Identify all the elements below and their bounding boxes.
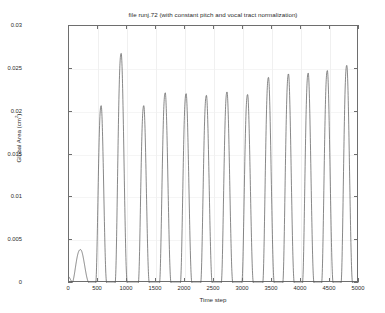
x-tick-mark-top: [358, 25, 359, 29]
x-tick-mark-top: [271, 25, 272, 29]
y-tick-mark-right: [354, 68, 358, 69]
x-tick-mark: [358, 278, 359, 282]
y-axis-label: Global Area (cm2): [14, 78, 22, 198]
x-tick-mark: [329, 278, 330, 282]
y-tick-mark-right: [354, 239, 358, 240]
y-tick-mark-right: [354, 111, 358, 112]
data-line-series: [69, 26, 359, 283]
x-tick-mark-top: [329, 25, 330, 29]
x-tick-label: 1500: [149, 285, 162, 291]
y-tick-mark: [68, 196, 72, 197]
x-tick-mark-top: [213, 25, 214, 29]
x-tick-label: 0: [66, 285, 69, 291]
x-tick-mark: [300, 278, 301, 282]
x-tick-label: 1000: [120, 285, 133, 291]
x-tick-mark: [271, 278, 272, 282]
x-tick-mark-top: [184, 25, 185, 29]
y-axis-label-paren: ): [15, 114, 22, 116]
x-tick-mark: [126, 278, 127, 282]
x-tick-mark: [242, 278, 243, 282]
x-tick-label: 3000: [236, 285, 249, 291]
x-tick-mark: [97, 278, 98, 282]
y-tick-mark-right: [354, 154, 358, 155]
y-tick-label: 0.01: [11, 193, 22, 199]
x-tick-mark-top: [155, 25, 156, 29]
y-tick-label: 0.015: [7, 151, 22, 157]
y-tick-mark: [68, 68, 72, 69]
y-tick-label: 0: [19, 279, 22, 285]
y-tick-mark-right: [354, 282, 358, 283]
x-tick-label: 5000: [352, 285, 365, 291]
x-tick-mark-top: [68, 25, 69, 29]
x-tick-label: 3500: [265, 285, 278, 291]
x-tick-label: 2000: [178, 285, 191, 291]
x-tick-mark: [213, 278, 214, 282]
x-tick-mark-top: [242, 25, 243, 29]
x-tick-label: 2500: [207, 285, 220, 291]
x-tick-mark: [155, 278, 156, 282]
x-tick-label: 4000: [294, 285, 307, 291]
x-tick-mark-top: [97, 25, 98, 29]
y-tick-label: 0.025: [7, 65, 22, 71]
x-tick-mark: [68, 278, 69, 282]
chart-title: file runj.72 (with constant pitch and vo…: [68, 11, 358, 18]
y-tick-mark-right: [354, 196, 358, 197]
plot-area: [68, 25, 358, 282]
y-tick-mark: [68, 154, 72, 155]
x-tick-label: 500: [92, 285, 102, 291]
x-tick-mark: [184, 278, 185, 282]
y-tick-label: 0.03: [11, 22, 22, 28]
x-tick-mark-top: [126, 25, 127, 29]
y-tick-mark: [68, 282, 72, 283]
y-tick-mark: [68, 239, 72, 240]
figure-canvas: file runj.72 (with constant pitch and vo…: [0, 0, 385, 313]
x-tick-label: 4500: [323, 285, 336, 291]
y-tick-label: 0.005: [7, 236, 22, 242]
x-axis-label: Time step: [68, 296, 358, 303]
y-tick-label: 0.02: [11, 108, 22, 114]
y-tick-mark: [68, 111, 72, 112]
x-tick-mark-top: [300, 25, 301, 29]
